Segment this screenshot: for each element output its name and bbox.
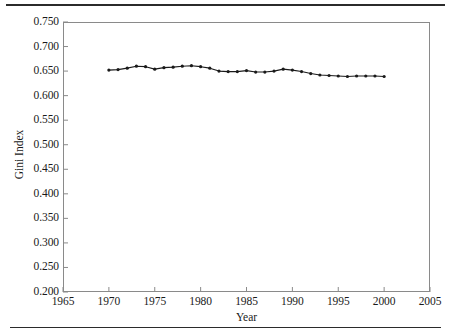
- data-point: [272, 69, 275, 72]
- data-point: [327, 74, 330, 77]
- x-tick-label: 1980: [177, 295, 225, 308]
- data-point: [254, 70, 257, 73]
- y-axis-ticks: [63, 22, 68, 292]
- data-point: [190, 64, 193, 67]
- x-tick-label: 1970: [85, 295, 133, 308]
- x-tick-label: 2005: [406, 295, 451, 308]
- data-point: [263, 70, 266, 73]
- data-point: [217, 69, 220, 72]
- x-tick-label: 1995: [314, 295, 362, 308]
- data-point: [227, 70, 230, 73]
- data-point: [364, 74, 367, 77]
- data-point: [208, 67, 211, 70]
- figure: 0.2000.2500.3000.3500.4000.4500.5000.550…: [0, 0, 451, 336]
- data-point: [383, 75, 386, 78]
- data-point: [300, 70, 303, 73]
- top-horizontal-rule: [6, 4, 445, 6]
- y-tick-label: 0.600: [19, 90, 59, 102]
- data-point: [162, 66, 165, 69]
- data-point: [199, 65, 202, 68]
- x-axis-tick-labels: 196519701975198019851990199520002005: [63, 295, 430, 311]
- y-axis-title: Gini Index: [13, 105, 26, 205]
- data-point: [144, 65, 147, 68]
- data-point: [172, 66, 175, 69]
- y-tick-label: 0.350: [19, 212, 59, 224]
- data-point: [245, 69, 248, 72]
- y-tick-label: 0.650: [19, 65, 59, 77]
- data-point: [355, 74, 358, 77]
- y-tick-label: 0.300: [19, 237, 59, 249]
- data-point: [309, 72, 312, 75]
- data-point: [135, 65, 138, 68]
- x-axis-title: Year: [63, 311, 430, 324]
- y-tick-label: 0.250: [19, 261, 59, 273]
- bottom-horizontal-rule: [10, 327, 441, 328]
- data-point: [291, 69, 294, 72]
- x-tick-label: 1985: [223, 295, 271, 308]
- line-chart-plot: [63, 22, 430, 292]
- data-point: [337, 74, 340, 77]
- x-tick-label: 1965: [39, 295, 87, 308]
- y-tick-label: 0.750: [19, 16, 59, 28]
- x-tick-label: 1990: [268, 295, 316, 308]
- data-point: [318, 73, 321, 76]
- data-point: [282, 68, 285, 71]
- data-point: [153, 68, 156, 71]
- x-tick-label: 1975: [131, 295, 179, 308]
- x-axis-ticks: [63, 287, 430, 292]
- x-tick-label: 2000: [360, 295, 408, 308]
- data-point: [126, 67, 129, 70]
- data-point: [116, 68, 119, 71]
- data-point: [181, 65, 184, 68]
- y-tick-label: 0.700: [19, 41, 59, 53]
- data-point: [346, 75, 349, 78]
- data-point: [373, 74, 376, 77]
- data-point: [107, 69, 110, 72]
- data-point: [236, 70, 239, 73]
